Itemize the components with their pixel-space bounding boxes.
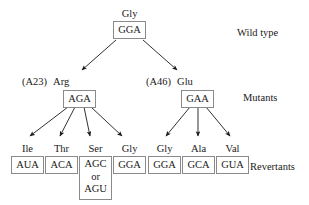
arrow-gaa-to-gly [166,107,190,136]
mutant-a23-heading: (A23)Arg [22,76,69,88]
revertant-thr-codon-box: ACA [45,156,78,174]
stage-label-revertants: Revertants [250,161,295,173]
revertant-ile-codon-box: AUA [11,156,44,174]
revertant-ser-codon-primary: AGC [83,158,108,171]
revertant-val-codon-box: GUA [216,156,249,174]
wild-type-amino-acid: Gly [107,8,152,20]
revertant-thr: Thr ACA [45,143,78,174]
arrow-aga-to-thr [60,107,75,136]
stage-label-mutants: Mutants [243,92,277,104]
arrow-wildtype-to-mutant-a23 [82,40,116,70]
arrow-aga-to-ser [84,107,90,136]
revertant-gly-left-codon-box: GGA [113,156,146,174]
node-wild-type: Gly GGA [107,8,152,39]
wild-type-codon-box: GGA [113,21,146,39]
revertant-ser-codon-alternate: AGU [83,183,108,196]
revertant-ser: Ser AGC or AGU [79,143,112,200]
revertant-ala-amino-acid: Ala [182,143,215,155]
revertant-gly-right: Gly GGA [148,143,181,174]
revertant-ser-amino-acid: Ser [79,143,112,155]
revertant-val: Val GUA [216,143,249,174]
codon-reversion-diagram: Gly GGA Wild type (A23)Arg AGA (A46)Glu … [0,0,309,205]
revertant-thr-amino-acid: Thr [45,143,78,155]
mutant-a46-amino-acid: Glu [177,76,193,87]
mutant-a23-allele: (A23) [22,76,47,87]
mutant-a23-amino-acid: Arg [53,76,69,87]
revertant-gly-right-codon-box: GGA [148,156,181,174]
revertant-ile-amino-acid: Ile [11,143,44,155]
arrow-gaa-to-val [206,107,230,136]
revertant-gly-left: Gly GGA [113,143,146,174]
revertant-val-amino-acid: Val [216,143,249,155]
arrow-aga-to-ile [30,107,68,136]
mutant-a46-heading: (A46)Glu [146,76,193,88]
revertant-gly-right-amino-acid: Gly [148,143,181,155]
revertant-ala-codon-box: GCA [182,156,215,174]
mutant-a23-codon-box: AGA [63,90,96,108]
revertant-ile: Ile AUA [11,143,44,174]
revertant-ser-codon-box: AGC or AGU [79,156,112,200]
stage-label-wild-type: Wild type [237,27,278,39]
revertant-ser-conjunction: or [83,171,108,184]
mutant-a46-allele: (A46) [146,76,171,87]
revertant-gly-left-amino-acid: Gly [113,143,146,155]
mutant-a46-codon-box: GAA [181,90,214,108]
revertant-ala: Ala GCA [182,143,215,174]
arrow-aga-to-gly [91,107,122,136]
arrow-wildtype-to-mutant-a46 [143,40,177,70]
